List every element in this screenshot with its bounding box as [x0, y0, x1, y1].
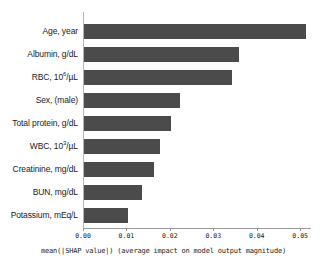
- y-axis-tick-label: WBC, 103/µL: [0, 139, 78, 154]
- x-axis-tick-label: 0.00: [75, 232, 91, 240]
- x-axis-tick-label: 0.04: [249, 232, 265, 240]
- shap-feature-importance-chart: Age, yearAlbumin, g/dLRBC, 106/µLSex, (m…: [0, 0, 327, 270]
- x-axis-tick-label: 0.01: [119, 232, 135, 240]
- bar: [84, 116, 171, 131]
- x-axis-tick-label: 0.03: [205, 232, 221, 240]
- y-axis-tick-label: Age, year: [0, 24, 78, 39]
- x-axis-line: [83, 228, 311, 229]
- bar: [84, 208, 128, 223]
- x-axis-tick-mark: [213, 228, 214, 231]
- y-axis-tick-label: RBC, 106/µL: [0, 70, 78, 85]
- bar: [84, 70, 232, 85]
- x-axis-tick-mark: [300, 228, 301, 231]
- y-axis-tick-label: Total protein, g/dL: [0, 116, 78, 131]
- bar: [84, 185, 142, 200]
- y-axis-tick-label: Albumin, g/dL: [0, 47, 78, 62]
- x-axis-tick-label: 0.02: [162, 232, 178, 240]
- bar: [84, 162, 154, 177]
- x-axis-tick-label: 0.05: [292, 232, 308, 240]
- bar: [84, 24, 306, 39]
- y-axis-tick-label: BUN, mg/dL: [0, 185, 78, 200]
- x-axis-title: mean(|SHAP value|) (average impact on mo…: [0, 247, 327, 255]
- x-axis-tick-mark: [83, 228, 84, 231]
- y-axis-tick-label: Creatinine, mg/dL: [0, 162, 78, 177]
- x-axis-tick-mark: [170, 228, 171, 231]
- x-axis-tick-mark: [257, 228, 258, 231]
- y-axis-tick-label: Sex, (male): [0, 93, 78, 108]
- bar: [84, 139, 160, 154]
- x-axis-tick-mark: [126, 228, 127, 231]
- bar: [84, 93, 180, 108]
- y-axis-tick-label: Potassium, mEq/L: [0, 208, 78, 223]
- bar: [84, 47, 239, 62]
